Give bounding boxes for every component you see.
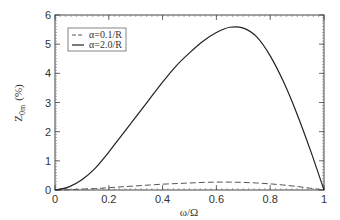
x-tick-label: 0.8	[263, 193, 278, 205]
y-axis-label-sub: 0m	[18, 104, 27, 115]
x-tick-label: 0.6	[209, 193, 224, 205]
x-tick-label: 0.4	[155, 193, 170, 205]
y-tick-labels: 0123456	[45, 9, 51, 196]
x-tick-label: 0.2	[101, 193, 116, 205]
y-tick-label: 2	[45, 126, 51, 138]
y-tick-label: 5	[45, 38, 51, 50]
x-tick-label: 1	[321, 193, 327, 205]
x-tick-labels: 00.20.40.60.81	[52, 193, 327, 205]
legend: α=0.1/R α=2.0/R	[68, 28, 126, 51]
y-tick-label: 1	[45, 155, 51, 167]
x-tick-label: 0	[52, 193, 58, 205]
y-tick-label: 3	[45, 97, 51, 109]
y-axis-label-unit: (%)	[12, 84, 25, 101]
y-axis-label: Z0m(%)	[12, 84, 27, 122]
x-axis-label: ω/Ω	[180, 206, 198, 218]
svg-text:Z0m(%): Z0m(%)	[12, 84, 27, 122]
legend-label-1: α=2.0/R	[89, 39, 122, 50]
y-tick-label: 4	[45, 67, 51, 79]
line-chart: 00.20.40.60.81 0123456 ω/Ω Z0m(%) α=0.1/…	[0, 0, 340, 220]
y-tick-label: 6	[45, 9, 51, 21]
y-tick-label: 0	[45, 184, 51, 196]
